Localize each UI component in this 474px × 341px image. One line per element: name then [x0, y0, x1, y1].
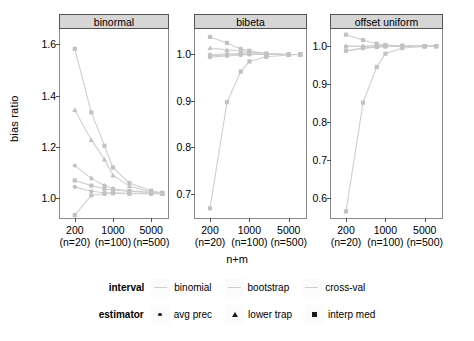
x-tick-label: 1000(n=100) — [231, 224, 267, 248]
x-tick-mark — [210, 218, 211, 222]
data-point-marker — [383, 44, 387, 48]
data-point-marker — [89, 110, 93, 114]
data-point-marker — [434, 44, 438, 48]
legend-item-label: cross-val — [325, 282, 365, 293]
legend-item-label: binomial — [174, 282, 211, 293]
legend-item-label: bootstrap — [248, 282, 290, 293]
y-tick-mark — [327, 122, 331, 123]
data-point-marker — [239, 70, 243, 74]
data-point-marker — [89, 176, 93, 180]
facet-strip-label: offset uniform — [330, 14, 443, 29]
facet-strip-label: bibeta — [194, 14, 307, 29]
y-tick-mark — [56, 147, 60, 148]
legend-item-label: interp med — [328, 309, 375, 320]
data-point-marker — [89, 193, 93, 197]
x-tick-mark — [249, 218, 250, 222]
data-point-marker — [110, 173, 115, 178]
triangle-marker-icon — [232, 312, 238, 317]
data-point-marker — [73, 47, 77, 51]
data-point-marker — [102, 144, 106, 148]
data-point-marker — [423, 44, 427, 48]
x-tick-mark — [151, 218, 152, 222]
square-marker-icon — [312, 312, 317, 317]
legend-item-estimator[interactable]: avg prec — [151, 305, 212, 324]
legend-key-marker — [225, 305, 244, 324]
y-tick-label: 0.6 — [312, 192, 327, 204]
x-tick-label: 5000(n=500) — [406, 224, 442, 248]
data-point-marker — [208, 55, 212, 59]
data-point-marker — [383, 52, 387, 56]
line-swatch-icon — [228, 287, 241, 289]
legend-item-interval[interactable]: cross-val — [302, 278, 365, 297]
legend-estimator: estimator avg preclower trapinterp med — [0, 305, 474, 324]
x-tick-mark — [289, 218, 290, 222]
data-point-marker — [111, 191, 115, 195]
legend-item-estimator[interactable]: lower trap — [225, 305, 292, 324]
x-tick-label: 5000(n=500) — [270, 224, 306, 248]
y-tick-mark — [327, 198, 331, 199]
data-point-marker — [361, 38, 365, 42]
x-tick-mark — [113, 218, 114, 222]
series-canvas — [331, 29, 442, 218]
legend-item-interval[interactable]: binomial — [151, 278, 211, 297]
y-tick-mark — [327, 46, 331, 47]
data-point-marker — [225, 41, 229, 45]
plot-area: 0.70.80.91.0200(n=20)1000(n=100)5000(n=5… — [194, 29, 307, 219]
data-point-marker — [375, 65, 379, 69]
y-tick-label: 0.7 — [312, 154, 327, 166]
y-tick-mark — [327, 84, 331, 85]
plot-area: 0.60.70.80.91.0200(n=20)1000(n=100)5000(… — [330, 29, 443, 219]
chart-figure: bias ratio binormal1.01.21.41.6200(n=20)… — [0, 0, 474, 341]
data-point-marker — [375, 45, 379, 49]
data-point-marker — [264, 55, 268, 59]
y-tick-label: 0.7 — [176, 188, 191, 200]
line-swatch-icon — [305, 287, 318, 289]
data-point-marker — [111, 166, 115, 170]
legend-item-estimator[interactable]: interp med — [305, 305, 375, 324]
y-tick-label: 1.0 — [176, 48, 191, 60]
data-point-marker — [102, 187, 106, 191]
data-point-marker — [89, 189, 93, 193]
y-tick-mark — [191, 54, 195, 55]
legend-key-line — [302, 278, 321, 297]
line-swatch-icon — [154, 287, 167, 289]
data-point-marker — [361, 46, 365, 50]
data-point-marker — [344, 209, 348, 213]
series-line — [346, 46, 436, 211]
data-point-marker — [247, 59, 251, 63]
plot-area: 1.01.21.41.6200(n=20)1000(n=100)5000(n=5… — [59, 29, 169, 219]
data-point-marker — [225, 54, 229, 58]
data-point-marker — [361, 101, 365, 105]
y-tick-label: 0.9 — [176, 95, 191, 107]
data-point-marker — [73, 178, 77, 182]
y-axis-title: bias ratio — [8, 64, 20, 78]
data-point-marker — [400, 46, 404, 50]
x-tick-mark — [346, 218, 347, 222]
series-canvas — [60, 29, 168, 218]
series-line — [210, 55, 300, 209]
facet-panel: binormal1.01.21.41.6200(n=20)1000(n=100)… — [59, 14, 169, 219]
data-point-marker — [298, 52, 302, 56]
y-tick-mark — [191, 194, 195, 195]
data-point-marker — [73, 185, 77, 189]
y-tick-mark — [191, 101, 195, 102]
data-point-marker — [344, 49, 348, 53]
x-tick-label: 5000(n=500) — [133, 224, 169, 248]
facet-panel: bibeta0.70.80.91.0200(n=20)1000(n=100)50… — [194, 14, 307, 219]
series-canvas — [195, 29, 306, 218]
data-point-marker — [208, 35, 212, 39]
legend-key-line — [151, 278, 170, 297]
legend-interval: interval binomialbootstrapcross-val — [0, 278, 474, 297]
y-tick-label: 1.2 — [41, 141, 56, 153]
x-tick-label: 200(n=20) — [195, 224, 226, 248]
facet-strip-label: binormal — [59, 14, 169, 29]
x-tick-mark — [385, 218, 386, 222]
legend-item-interval[interactable]: bootstrap — [225, 278, 290, 297]
data-point-marker — [73, 164, 77, 168]
circle-marker-icon — [158, 313, 162, 317]
y-tick-label: 0.9 — [312, 78, 327, 90]
data-point-marker — [73, 213, 77, 217]
y-tick-label: 1.6 — [41, 38, 56, 50]
x-axis-title: n+m — [0, 253, 474, 265]
legend-key-line — [225, 278, 244, 297]
